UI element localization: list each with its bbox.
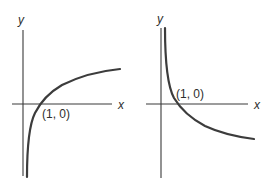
figure-canvas: y x (1, 0) y x (1, 0) (0, 0, 268, 187)
right-y-axis-label: y (156, 12, 164, 26)
left-point-label: (1, 0) (42, 107, 70, 121)
right-graph: y x (1, 0) (146, 12, 261, 178)
right-log-curve (165, 28, 254, 139)
left-graph: y x (1, 0) (12, 13, 125, 177)
left-x-axis-label: x (117, 98, 125, 112)
left-log-curve (27, 69, 120, 177)
left-y-axis-label: y (17, 13, 25, 27)
right-point-label: (1, 0) (176, 87, 204, 101)
right-x-axis-label: x (253, 98, 261, 112)
